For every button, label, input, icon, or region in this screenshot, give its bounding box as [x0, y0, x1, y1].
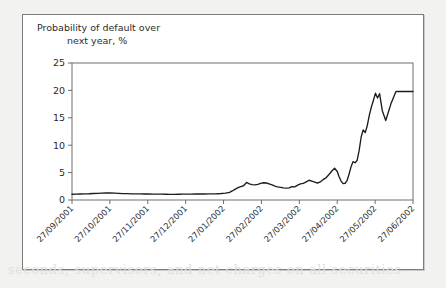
default-probability-line [72, 92, 413, 195]
x-tick-label: 27/12/2001 [148, 203, 189, 244]
x-tick-label: 27/03/2002 [262, 203, 303, 244]
y-tick-label: 25 [53, 57, 65, 68]
y-axis: 0510152025 [53, 57, 72, 205]
figure-panel: Probability of default over next year, %… [22, 14, 424, 270]
y-tick-label: 15 [53, 112, 65, 123]
x-tick-label: 27/11/2001 [110, 203, 151, 244]
plot-area: 0510152025 27/09/200127/10/200127/11/200… [23, 15, 425, 271]
x-tick-label: 27/06/2002 [376, 203, 417, 244]
y-tick-label: 5 [59, 167, 65, 178]
x-tick-label: 27/05/2002 [338, 203, 379, 244]
x-tick-label: 27/10/2001 [72, 203, 113, 244]
y-tick-label: 0 [59, 194, 65, 205]
x-tick-label: 27/04/2002 [300, 203, 341, 244]
y-tick-label: 10 [53, 140, 65, 151]
x-tick-label: 27/01/2002 [186, 203, 227, 244]
y-tick-label: 20 [53, 85, 65, 96]
x-tick-label: 27/09/2001 [35, 203, 76, 244]
plot-border [72, 63, 413, 200]
line-chart-svg: 0510152025 27/09/200127/10/200127/11/200… [23, 15, 425, 271]
x-axis: 27/09/200127/10/200127/11/200127/12/2001… [35, 200, 417, 244]
x-tick-label: 27/02/2002 [224, 203, 265, 244]
plot-frame [72, 63, 413, 200]
